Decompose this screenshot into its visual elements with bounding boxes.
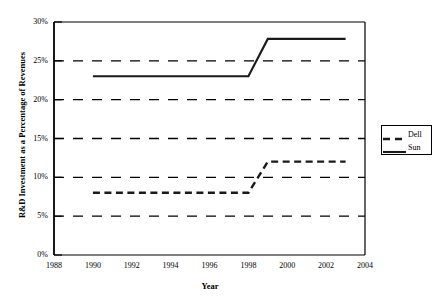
xtick-label-1998: 1998 — [226, 262, 270, 270]
xtick-label-2004: 2004 — [343, 262, 387, 270]
ytick-label-0: 0% — [14, 251, 48, 259]
xtick-label-1988: 1988 — [32, 262, 76, 270]
legend-swatch-solid-icon — [382, 143, 407, 153]
xtick-label-2002: 2002 — [304, 262, 348, 270]
xtick-label-1992: 1992 — [110, 262, 154, 270]
xtick-label-1990: 1990 — [71, 262, 115, 270]
chart-plot-svg — [0, 0, 438, 302]
legend-swatch-dashed-icon — [382, 130, 407, 140]
chart-container: 30% 25% 20% 15% 10% 5% 0% 1988 1990 1992… — [0, 0, 438, 302]
chart-legend: Dell Sun — [381, 125, 432, 155]
legend-label-sun: Sun — [407, 144, 420, 152]
y-tick-marks — [54, 22, 62, 255]
legend-item-dell: Dell — [382, 128, 433, 141]
legend-label-dell: Dell — [407, 131, 422, 139]
xtick-label-1996: 1996 — [188, 262, 232, 270]
series-line-sun — [93, 39, 346, 76]
xtick-label-1994: 1994 — [149, 262, 193, 270]
y-axis-title: R&D Investment as a Percentage of Revenu… — [17, 25, 27, 245]
xtick-label-2000: 2000 — [265, 262, 309, 270]
legend-item-sun: Sun — [382, 141, 433, 154]
x-axis-title: Year — [0, 281, 420, 291]
